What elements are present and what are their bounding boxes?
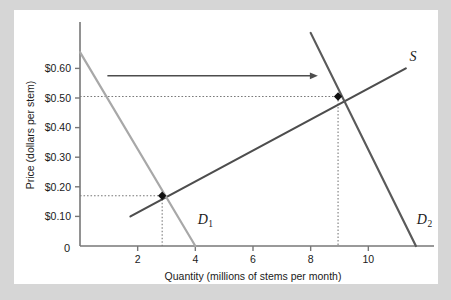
- y-axis-tick-label: $0.20: [45, 181, 71, 193]
- x-axis-tick-label: 8: [308, 253, 314, 265]
- curve-D2: [311, 33, 416, 246]
- curve-label-D1: D1: [197, 212, 214, 230]
- x-axis-title: Quantity (millions of stems per month): [165, 270, 342, 282]
- y-axis-title: Price (dollars per stem): [24, 81, 36, 190]
- curve-label-D2: D2: [416, 212, 433, 230]
- x-axis-tick-label: 2: [135, 253, 141, 265]
- annotation-layer: [107, 72, 317, 79]
- y-axis-tick-label: $0.40: [45, 121, 71, 133]
- supply-demand-chart: $0.10$0.20$0.30$0.40$0.50$0.602468100Qua…: [14, 10, 438, 284]
- x-axis-tick-label: 4: [192, 253, 198, 265]
- y-axis-tick-label: $0.30: [45, 151, 71, 163]
- equilibrium-points-layer: [158, 92, 342, 200]
- curve-label-S: S: [410, 49, 417, 64]
- figure-plate: $0.10$0.20$0.30$0.40$0.50$0.602468100Qua…: [14, 10, 438, 284]
- x-axis-tick-label: 10: [362, 253, 374, 265]
- curve-label-subscript-D1: 1: [208, 219, 213, 229]
- x-axis-tick-label: 6: [250, 253, 256, 265]
- shift-arrow-head: [310, 72, 318, 79]
- curve-D1: [80, 52, 195, 246]
- y-axis-tick-label: $0.60: [45, 62, 71, 74]
- y-axis-tick-label: $0.10: [45, 210, 71, 222]
- curve-label-subscript-D2: 2: [427, 219, 432, 229]
- figure-frame: $0.10$0.20$0.30$0.40$0.50$0.602468100Qua…: [0, 0, 451, 300]
- curves-layer: [80, 33, 416, 246]
- origin-label: 0: [64, 242, 70, 254]
- y-axis-tick-label: $0.50: [45, 92, 71, 104]
